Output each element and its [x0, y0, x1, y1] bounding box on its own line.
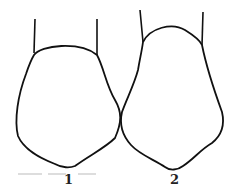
outline-2-right-stem: [202, 12, 203, 45]
outline-1-shape: [16, 46, 120, 167]
figure-label-1: 1: [64, 172, 73, 187]
outline-2-shape: [121, 26, 223, 169]
outline-2-left-stem: [140, 10, 143, 42]
diagram-canvas: [0, 0, 238, 195]
outline-1-left-stem: [34, 19, 35, 53]
figure-label-2: 2: [170, 172, 179, 187]
outline-1: [16, 19, 120, 167]
outline-2: [121, 10, 223, 170]
